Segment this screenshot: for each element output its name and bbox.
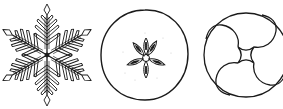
snowflake-icon: [0, 0, 95, 109]
swirl-circle-icon: [191, 0, 283, 109]
snowflake-figure: Snowflake: [0, 0, 95, 109]
swirl-circle-figure: Four-fold swirl in circle: [191, 0, 283, 109]
apple-cross-section-figure: Apple cross-section: [95, 0, 191, 109]
apple-slice-icon: [95, 0, 191, 109]
